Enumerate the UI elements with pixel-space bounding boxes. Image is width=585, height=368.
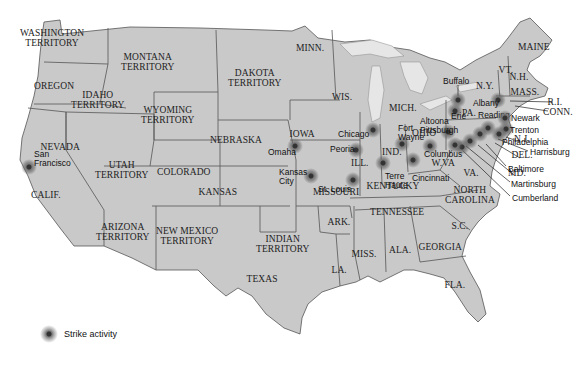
state-label: MASS.	[511, 87, 540, 97]
city-label: TerreHaute	[385, 172, 408, 190]
state-label: GEORGIA	[419, 242, 462, 252]
city-label: SanFrancisco	[34, 150, 71, 168]
state-label: TEXAS	[247, 274, 278, 284]
state-label: WYOMINGTERRITORY	[141, 105, 195, 125]
state-label: MICH.	[389, 103, 417, 113]
legend-label: Strike activity	[64, 329, 117, 339]
city-label: Omaha	[268, 148, 296, 157]
state-label: MAINE	[518, 42, 550, 52]
state-label: FLA.	[445, 280, 466, 290]
state-label: N.Y.	[476, 81, 494, 91]
city-label: Philadelphia	[502, 138, 548, 147]
city-label: Peoria	[330, 145, 355, 154]
city-label: KansasCity	[279, 168, 307, 186]
state-label: CALIF.	[31, 190, 61, 200]
state-label: R.I.	[548, 97, 563, 107]
state-label: WIS.	[332, 92, 352, 102]
state-label: LA.	[332, 265, 347, 275]
city-label: Trenton	[510, 126, 539, 135]
state-label: KANSAS	[199, 187, 238, 197]
state-label: ALA.	[389, 245, 411, 255]
city-label: Cumberland	[512, 194, 558, 203]
city-label: Newark	[511, 114, 540, 123]
state-label: MINN.	[296, 43, 324, 53]
state-label: S.C.	[452, 221, 469, 231]
state-label: NEBRASKA	[210, 135, 262, 145]
strike-marker-icon	[447, 137, 463, 153]
state-label: IDAHOTERRITORY	[71, 90, 125, 110]
city-label: St. Louis	[318, 185, 351, 194]
city-label: Harrisburg	[530, 148, 570, 157]
state-label: DAKOTATERRITORY	[228, 68, 282, 88]
state-label: WASHINGTONTERRITORY	[20, 28, 84, 48]
state-label: CONN.	[543, 107, 573, 117]
strike-marker-icon	[375, 155, 391, 171]
city-label: Erie	[451, 112, 466, 121]
city-label: Martinsburg	[511, 180, 556, 189]
city-label: Cincinnati	[412, 174, 449, 183]
state-label: COLORADO	[157, 167, 211, 177]
state-label: MONTANATERRITORY	[121, 52, 175, 72]
state-label: W.VA	[432, 158, 455, 168]
state-label: VA.	[464, 168, 479, 178]
city-label: Buffalo	[443, 77, 469, 86]
map-legend: Strike activity	[40, 325, 117, 343]
city-label: Albany	[473, 99, 499, 108]
state-label: UTAHTERRITORY	[95, 160, 149, 180]
state-label: NEW MEXICOTERRITORY	[156, 226, 218, 246]
city-label: Chicago	[338, 130, 369, 139]
state-label: OREGON	[34, 81, 74, 91]
state-label: INDIANTERRITORY	[256, 234, 310, 254]
state-label: ILL.	[351, 158, 369, 168]
state-label: NORTHCAROLINA	[445, 185, 495, 205]
state-label: N.H.	[510, 72, 529, 82]
state-label: TENNESSEE	[370, 207, 424, 217]
strike-activity-icon	[40, 325, 58, 343]
state-label: ARIZONATERRITORY	[96, 222, 150, 242]
strike-marker-icon	[405, 152, 421, 168]
state-label: ARK.	[328, 217, 351, 227]
state-label: MISS.	[352, 249, 377, 259]
city-label: Baltimore	[508, 165, 544, 174]
